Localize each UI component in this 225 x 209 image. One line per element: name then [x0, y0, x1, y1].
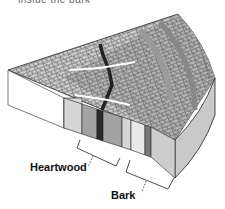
trunk-wedge-diagram: [0, 0, 225, 209]
heartwood-label: Heartwood: [30, 161, 87, 173]
bark-label: Bark: [111, 189, 135, 201]
